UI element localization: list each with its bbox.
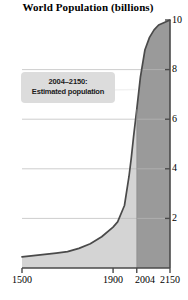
plot-area xyxy=(0,0,188,300)
ytick-label-6: 6 xyxy=(172,113,177,124)
callout-date-range: 2004–2150: xyxy=(23,77,113,87)
callout-description: Estimated population xyxy=(23,87,113,97)
ytick-label-8: 8 xyxy=(172,63,177,74)
ytick-label-2: 2 xyxy=(172,212,177,223)
world-population-chart: World Population (billions) xyxy=(0,0,188,300)
xtick-label-2150: 2150 xyxy=(152,274,188,285)
ytick-label-10: 10 xyxy=(172,14,182,25)
estimated-population-callout: 2004–2150: Estimated population xyxy=(21,72,115,103)
xtick-label-1500: 1500 xyxy=(2,274,42,285)
ytick-label-4: 4 xyxy=(172,162,177,173)
area-projected xyxy=(22,20,170,268)
